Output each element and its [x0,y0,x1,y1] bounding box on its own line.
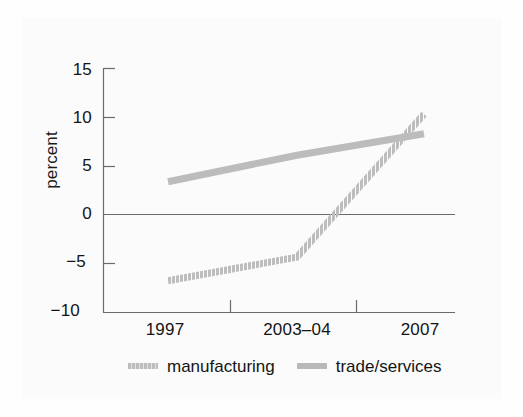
legend-item-manufacturing: manufacturing [128,358,275,375]
y-tick-label-5: 5 [46,156,92,176]
legend-label-manufacturing: manufacturing [167,358,275,375]
y-tick-marks [104,69,116,264]
chart-legend: manufacturing trade/services [128,352,458,380]
x-tick-label-1997: 1997 [105,320,225,340]
x-tick-marks [231,300,357,312]
line-chart: percent 15 10 5 0 −5 −10 1997 2003–04 20… [0,0,523,417]
y-tick-label-15: 15 [46,60,92,80]
chart-page: percent 15 10 5 0 −5 −10 1997 2003–04 20… [0,0,523,417]
legend-label-trade-services: trade/services [336,358,442,375]
x-tick-label-2003-04: 2003–04 [237,320,357,340]
y-tick-label-0: 0 [46,204,92,224]
y-tick-label-minus5: −5 [40,252,86,272]
solid-line-swatch-icon [297,363,327,369]
y-tick-label-minus10: −10 [34,301,80,321]
legend-item-trade-services: trade/services [297,358,442,375]
series-line-trade-services [168,134,424,182]
series-line-manufacturing [168,114,424,281]
dotted-line-swatch-icon [128,363,158,369]
x-tick-label-2007: 2007 [360,320,480,340]
y-tick-label-10: 10 [46,108,92,128]
